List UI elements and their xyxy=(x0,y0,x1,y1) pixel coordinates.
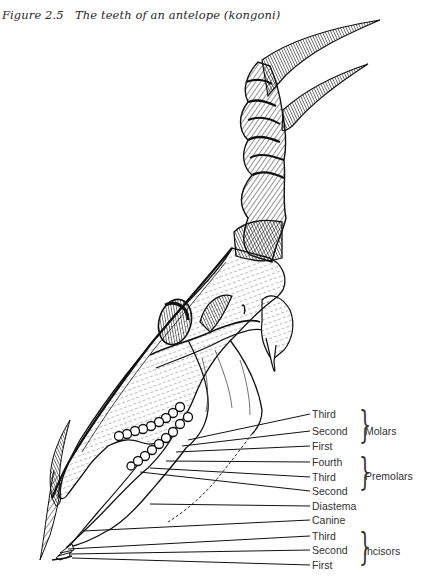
label-incisor-second: Second xyxy=(312,544,348,556)
label-incisor-third: Third xyxy=(312,530,336,542)
molars-brace: } xyxy=(359,405,371,443)
label-group-incisors: Incisors xyxy=(364,545,400,557)
label-diastema: Diastema xyxy=(312,500,356,512)
label-premolar-fourth: Fourth xyxy=(312,456,342,468)
label-group-premolars: Premolars xyxy=(365,470,413,482)
label-molar-first: First xyxy=(312,440,332,452)
label-premolar-third: Third xyxy=(312,471,336,483)
antelope-skull-drawing xyxy=(0,0,421,581)
label-incisor-first: First xyxy=(312,559,332,571)
label-molar-second: Second xyxy=(312,425,348,437)
horns xyxy=(234,20,380,262)
label-canine: Canine xyxy=(312,514,345,526)
label-group-molars: Molars xyxy=(365,425,397,437)
label-premolar-second: Second xyxy=(312,485,348,497)
label-molar-third: Third xyxy=(312,408,336,420)
skull xyxy=(40,248,293,560)
incisor-teeth xyxy=(52,544,74,560)
